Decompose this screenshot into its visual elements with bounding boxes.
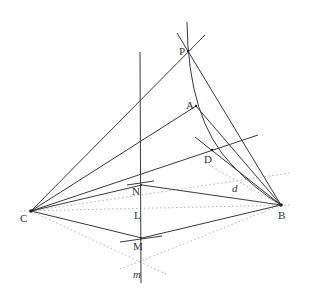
line-ca — [31, 106, 196, 211]
line-cn — [31, 185, 142, 211]
point-d — [211, 149, 213, 151]
label-m-line: m — [133, 268, 141, 280]
point-b — [279, 203, 283, 207]
labels: P A D B C N L M d m — [20, 45, 285, 280]
point-a — [195, 105, 197, 107]
label-b: B — [278, 209, 285, 221]
dotted-line-c-lower — [31, 211, 168, 275]
dotted-line-cb — [20, 205, 292, 211]
dotted-lines — [20, 163, 292, 275]
label-c: C — [20, 212, 27, 224]
dotted-line-d-b — [205, 163, 281, 205]
label-n: N — [132, 185, 140, 197]
arc-pb — [187, 22, 281, 205]
label-a: A — [186, 99, 194, 111]
point-c — [29, 209, 33, 213]
label-d: D — [204, 153, 212, 165]
label-m-point: M — [133, 240, 143, 252]
line-cp — [31, 35, 205, 211]
point-p — [187, 50, 189, 52]
line-mb — [142, 205, 281, 238]
point-m — [140, 237, 142, 239]
label-l: L — [134, 209, 141, 221]
solid-lines — [31, 22, 281, 283]
point-n — [140, 184, 142, 186]
line-cm — [31, 211, 142, 238]
geometry-diagram: P A D B C N L M d m — [0, 0, 309, 302]
dotted-line-c-upper — [31, 173, 290, 211]
label-d-line: d — [232, 182, 238, 194]
line-bp — [177, 33, 281, 205]
label-p: P — [179, 45, 185, 57]
